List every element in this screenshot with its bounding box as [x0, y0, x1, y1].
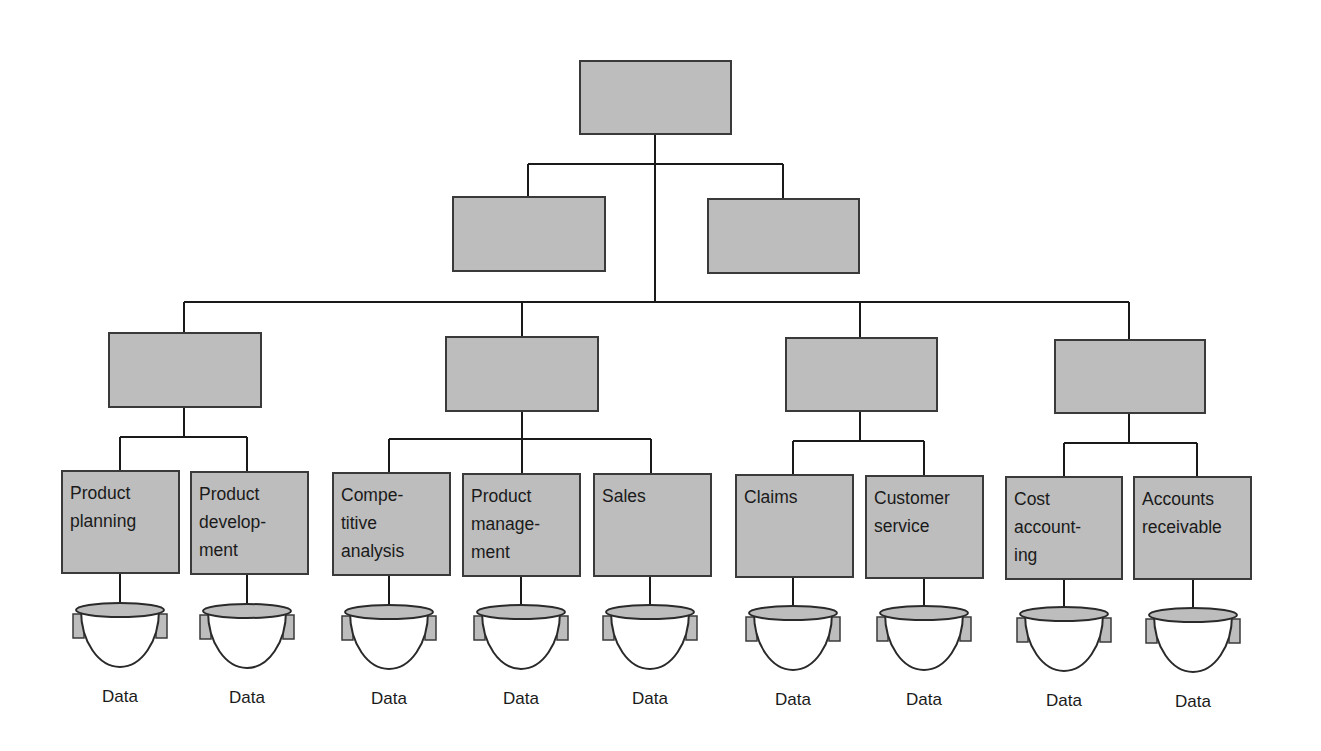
level3-box-4	[1054, 339, 1206, 414]
org-chart-diagram: Product planning Product develop- ment C…	[0, 0, 1321, 751]
leaf-product-development: Product develop- ment	[190, 471, 309, 575]
data-label: Data	[884, 690, 964, 710]
level2-box-left	[452, 196, 606, 272]
data-label: Data	[80, 687, 160, 707]
level2-box-right	[707, 198, 860, 274]
leaf-competitive-analysis: Compe- titive analysis	[332, 472, 451, 576]
root-box	[579, 60, 732, 135]
data-label: Data	[207, 688, 287, 708]
data-label: Data	[349, 689, 429, 709]
leaf-cost-accounting: Cost account- ing	[1005, 476, 1123, 580]
data-label: Data	[753, 690, 833, 710]
leaf-product-management: Product manage- ment	[462, 473, 581, 577]
data-label: Data	[610, 689, 690, 709]
data-label: Data	[1024, 691, 1104, 711]
level3-box-2	[445, 336, 599, 412]
leaf-claims: Claims	[735, 474, 854, 578]
level3-box-1	[108, 332, 262, 408]
level3-box-3	[785, 337, 938, 412]
leaf-sales: Sales	[593, 473, 712, 577]
leaf-product-planning: Product planning	[61, 470, 180, 574]
leaf-customer-service: Customer service	[865, 475, 984, 579]
leaf-accounts-receivable: Accounts receivable	[1133, 476, 1252, 580]
data-label: Data	[1153, 692, 1233, 712]
data-label: Data	[481, 689, 561, 709]
